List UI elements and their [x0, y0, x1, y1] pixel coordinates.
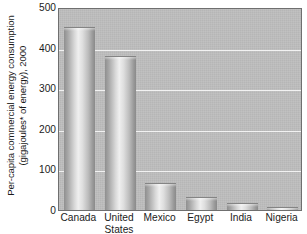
y-axis-tick-labels: 500 400 300 200 100 0 — [30, 0, 56, 220]
y-axis-title: Per-capita commercial energy consumption… — [0, 0, 33, 212]
y-tick-label-100: 100 — [39, 165, 56, 175]
bar-nigeria — [267, 207, 298, 210]
y-tick-label-200: 200 — [39, 125, 56, 135]
x-tick-label-line-1: Egypt — [187, 212, 213, 223]
bars-layer — [59, 9, 301, 210]
bar-chart-figure: Per-capita commercial energy consumption… — [0, 0, 307, 233]
y-tick-label-0: 0 — [50, 206, 56, 216]
x-tick-label-india: India — [221, 212, 262, 224]
y-tick-label-300: 300 — [39, 84, 56, 94]
y-tick-label-500: 500 — [39, 3, 56, 13]
plot-area — [58, 8, 302, 211]
bar-canada — [64, 27, 95, 210]
y-axis-title-line-2: (gigajoules* of energy), 2000 — [17, 16, 29, 197]
x-tick-label-united-states: UnitedStates — [99, 212, 140, 233]
x-tick-label-line-1: Mexico — [144, 212, 176, 223]
bar-india — [227, 203, 258, 210]
y-axis-title-line-1: Per-capita commercial energy consumption — [5, 16, 17, 197]
x-axis-tick-labels: CanadaUnitedStatesMexicoEgyptIndiaNigeri… — [58, 212, 302, 233]
x-tick-label-canada: Canada — [58, 212, 99, 224]
x-tick-label-line-1: United — [104, 212, 133, 223]
bar-egypt — [186, 197, 217, 210]
bar-united-states — [105, 56, 136, 210]
x-tick-label-line-1: India — [230, 212, 252, 223]
x-tick-label-line-2: States — [99, 224, 140, 234]
bar-mexico — [145, 183, 176, 210]
y-tick-label-400: 400 — [39, 44, 56, 54]
x-tick-label-nigeria: Nigeria — [261, 212, 302, 224]
x-tick-label-mexico: Mexico — [139, 212, 180, 224]
x-tick-label-line-1: Canada — [60, 212, 96, 223]
x-tick-label-line-1: Nigeria — [266, 212, 298, 223]
x-tick-label-egypt: Egypt — [180, 212, 221, 224]
